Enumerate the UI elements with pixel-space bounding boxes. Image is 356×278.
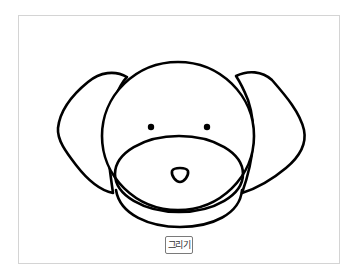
- draw-button[interactable]: 그리기: [165, 236, 193, 254]
- right-eye: [204, 124, 210, 130]
- left-eye: [148, 124, 154, 130]
